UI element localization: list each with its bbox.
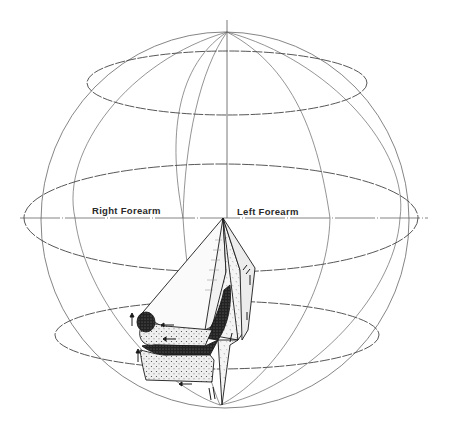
region-lower-block <box>140 350 214 382</box>
meridians <box>73 32 401 405</box>
cone-spine <box>218 340 238 405</box>
globe-diagram: Right Forearm Left Forearm <box>0 0 450 424</box>
region-dark-knob <box>137 312 155 332</box>
motion-cone <box>137 218 255 405</box>
label-right-forearm: Right Forearm <box>92 205 161 216</box>
label-left-forearm: Left Forearm <box>237 206 299 217</box>
